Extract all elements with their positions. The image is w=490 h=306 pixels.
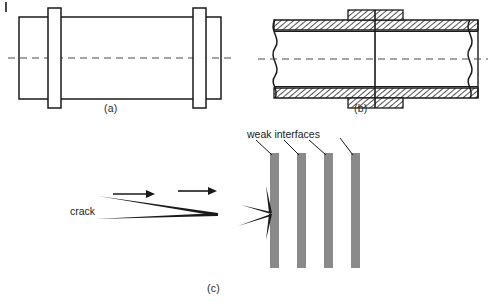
- panel-c-caption: (c): [207, 282, 220, 294]
- flange-ring-right: [193, 8, 206, 108]
- weak-interfaces-label: weak interfaces: [247, 128, 320, 140]
- flange-ring-left: [48, 8, 61, 108]
- weak-interface-bar: [351, 153, 360, 268]
- crack-flank-lower-left: [95, 213, 218, 219]
- panel-a-caption: (a): [104, 102, 117, 114]
- propagation-arrow-1: [113, 190, 155, 198]
- hatched-upper-wall: [274, 20, 478, 30]
- propagation-arrow-2: [178, 187, 217, 195]
- figure-canvas: [0, 0, 490, 306]
- crack-label: crack: [70, 205, 95, 217]
- weak-interface-bar: [297, 153, 306, 268]
- hatched-lower-wall: [274, 88, 478, 98]
- crack-flank-upper-right: [241, 205, 271, 214]
- leader-line: [309, 140, 326, 155]
- weak-interface-bar: [324, 153, 333, 268]
- crack-flank-upper-left: [98, 196, 218, 216]
- crack-flank-lower-right: [238, 214, 271, 226]
- leader-line: [284, 140, 299, 155]
- panel-c: [95, 138, 360, 268]
- panel-a: [8, 8, 233, 108]
- leader-line: [340, 138, 353, 155]
- leader-line: [256, 140, 272, 155]
- panel-b: [258, 10, 488, 108]
- panel-b-caption: (b): [354, 102, 367, 114]
